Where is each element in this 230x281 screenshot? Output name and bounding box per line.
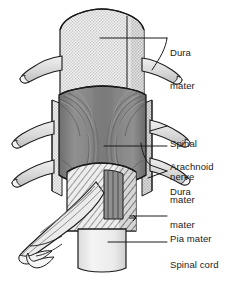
label-dura-mater-top: Dura mater [170,25,195,113]
label-dura-mater-top-line1: Dura [170,47,195,58]
label-spinal-cord: Spinal cord [170,237,219,281]
label-dura-mater-top-line2: mater [170,80,195,91]
label-dura-mater-mid-line1: Dura [170,186,195,197]
spinal-nerve-upper-left [20,56,62,83]
spinal-meninges-diagram: Dura mater Spinal nerve Arachnoid mater … [0,0,230,281]
spinal-cord-cylinder [78,229,126,272]
spinal-nerve-mid-left [12,121,54,148]
spinal-nerve-lower-left [12,160,54,187]
label-spinal-cord-line1: Spinal cord [170,259,219,270]
